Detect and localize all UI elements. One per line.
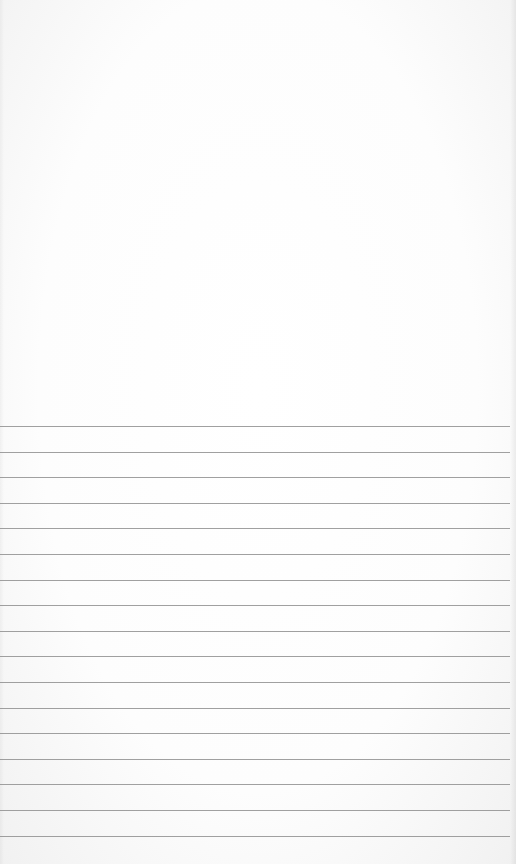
ruled-line: [0, 528, 510, 529]
ruled-line: [0, 733, 510, 734]
ruled-line: [0, 580, 510, 581]
ruled-line: [0, 836, 510, 837]
ruled-line: [0, 759, 510, 760]
ruled-line: [0, 682, 510, 683]
paper-edge-left: [0, 0, 4, 864]
paper-edge-right: [510, 0, 516, 864]
ruled-line: [0, 503, 510, 504]
ruled-line: [0, 477, 510, 478]
ruled-line: [0, 631, 510, 632]
ruled-line: [0, 426, 510, 427]
ruled-line: [0, 656, 510, 657]
ruled-line: [0, 605, 510, 606]
ruled-line: [0, 708, 510, 709]
ruled-line: [0, 452, 510, 453]
ruled-paper-sheet: [0, 0, 516, 864]
ruled-line: [0, 554, 510, 555]
ruled-line: [0, 784, 510, 785]
ruled-line: [0, 810, 510, 811]
